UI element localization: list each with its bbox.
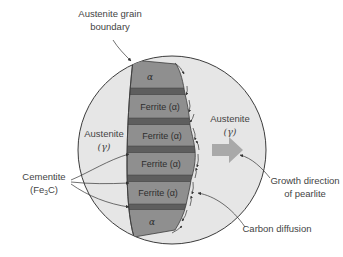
grain-boundary-label-line1: Austenite grain xyxy=(78,8,141,19)
cementite-formula: (Fe3C) xyxy=(30,184,58,196)
ferrite-label: Ferrite (α) xyxy=(140,102,180,112)
growth-direction-label: Growth direction xyxy=(270,175,339,186)
austenite-left-gamma: (γ) xyxy=(97,141,110,152)
ferrite-label: Ferrite (α) xyxy=(138,188,178,198)
grain-boundary-leader xyxy=(113,40,131,61)
growth-direction-label-2: of pearlite xyxy=(284,188,326,199)
alpha-label: α xyxy=(147,72,153,82)
ferrite-label: Ferrite (α) xyxy=(141,159,181,169)
ferrite-label: Ferrite (α) xyxy=(142,131,182,141)
austenite-right-label: Austenite xyxy=(210,113,250,124)
alpha-label: α xyxy=(149,217,155,227)
grain-boundary-label-line2: boundary xyxy=(90,21,130,32)
austenite-right-gamma: (γ) xyxy=(223,126,236,137)
carbon-diffusion-label: Carbon diffusion xyxy=(242,223,311,234)
austenite-left-label: Austenite xyxy=(84,128,124,139)
pearlite-diagram: αFerrite (α)Ferrite (α)Ferrite (α)Ferrit… xyxy=(0,0,343,257)
cementite-label: Cementite xyxy=(22,171,65,182)
